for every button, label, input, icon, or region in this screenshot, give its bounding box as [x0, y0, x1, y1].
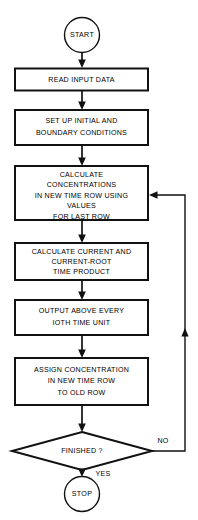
arrow-head-icon [78, 292, 86, 301]
connector-no-feedback-loop [149, 191, 189, 451]
finished-label: FINISHED ? [61, 447, 103, 455]
calculate-current-line-3: TIME PRODUCT [53, 268, 110, 276]
node-output[interactable]: OUTPUT ABOVE EVERY IOTH TIME UNIT [15, 300, 148, 335]
arrow-head-icon [78, 469, 86, 478]
set-up-line-1: SET UP INITIAL AND [45, 117, 117, 125]
set-up-box-shape [15, 110, 148, 145]
connector-start-to-read-input [78, 53, 86, 68]
connector-output-to-assign [78, 335, 86, 358]
output-box-shape [15, 300, 148, 335]
node-calculate-current[interactable]: CALCULATE CURRENT AND CURRENT-ROOT TIME … [15, 243, 148, 280]
node-finished[interactable]: FINISHED ? [12, 432, 152, 470]
node-read-input[interactable]: READ INPUT DATA [15, 69, 148, 91]
connector-finished-to-stop [78, 469, 86, 478]
calculate-concentrations-line-5: FOR LAST ROW [53, 213, 110, 221]
edge-label-no: NO [157, 437, 168, 445]
assign-line-1: ASSIGN CONCENTRATION [34, 366, 129, 374]
calculate-concentrations-line-2: CONCENTRATIONS [47, 181, 117, 189]
arrow-head-icon [78, 102, 86, 111]
stop-label: STOP [72, 490, 92, 498]
set-up-line-2: BOUNDARY CONDITIONS [36, 129, 127, 137]
arrow-head-icon [149, 191, 158, 199]
arrow-head-icon [78, 158, 86, 167]
arrow-head-icon [78, 424, 86, 433]
calculate-concentrations-line-1: CALCULATE [60, 171, 104, 179]
flowchart-canvas: START READ INPUT DATA SET UP INITIAL AND… [0, 0, 198, 520]
node-assign[interactable]: ASSIGN CONCENTRATION IN NEW TIME ROW TO … [15, 358, 148, 405]
start-label: START [70, 31, 94, 39]
connector-calculate-concentrations-to-calculate-current [78, 220, 86, 243]
node-stop[interactable]: STOP [65, 477, 100, 512]
calculate-current-line-2: CURRENT-ROOT [51, 258, 112, 266]
calculate-current-line-1: CALCULATE CURRENT AND [32, 248, 132, 256]
output-line-2: IOTH TIME UNIT [53, 319, 111, 327]
read-input-line-1: READ INPUT DATA [48, 76, 114, 84]
assign-line-2: IN NEW TIME ROW [48, 377, 116, 385]
arrow-head-icon [78, 350, 86, 359]
node-calculate-concentrations[interactable]: CALCULATE CONCENTRATIONS IN NEW TIME ROW… [15, 166, 148, 221]
arrow-head-up-icon [181, 328, 188, 337]
calculate-concentrations-line-4: VALUES [67, 202, 96, 210]
arrow-head-icon [78, 235, 86, 244]
assign-line-3: TO OLD ROW [57, 389, 105, 397]
connector-set-up-to-calculate-concentrations [78, 145, 86, 166]
arrow-head-icon [78, 60, 86, 69]
calculate-concentrations-line-3: IN NEW TIME ROW USING [35, 192, 128, 200]
connector-calculate-current-to-output [78, 280, 86, 300]
node-start[interactable]: START [65, 18, 100, 53]
connector-read-input-to-set-up [78, 91, 86, 111]
edge-label-yes: YES [95, 470, 110, 478]
node-set-up[interactable]: SET UP INITIAL AND BOUNDARY CONDITIONS [15, 110, 148, 145]
output-line-1: OUTPUT ABOVE EVERY [39, 307, 124, 315]
connector-assign-to-finished [78, 405, 86, 432]
